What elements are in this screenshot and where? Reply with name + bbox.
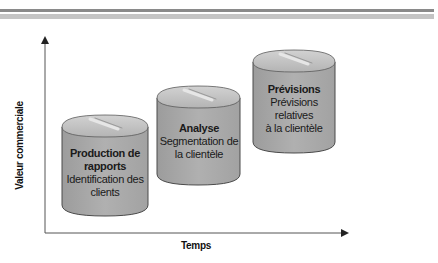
stage-production-de-rapports: Production de rapports Identification de… (60, 147, 150, 199)
x-axis-arrow-icon (341, 229, 349, 237)
y-axis (41, 36, 49, 233)
stage-description: clients (60, 186, 150, 199)
stage-title: Production de (60, 147, 150, 160)
y-axis-arrow-icon (41, 36, 49, 44)
stage-title: rapports (60, 160, 150, 173)
stage-description: Segmentation de (155, 135, 243, 148)
y-axis-label: Valeur commerciale (14, 91, 25, 201)
stage-title: Prévisions (251, 83, 337, 96)
stage-analyse: Analyse Segmentation de la clientèle (155, 122, 243, 161)
stage-description: à la clientèle (251, 122, 337, 135)
x-axis-label: Temps (181, 240, 211, 251)
stage-title: Analyse (155, 122, 243, 135)
stage-description: la clientèle (155, 148, 243, 161)
stage-description: Prévisions (251, 96, 337, 109)
stage-description: Identification des (60, 173, 150, 186)
stage-description: relatives (251, 109, 337, 122)
x-axis (45, 229, 349, 237)
stage-previsions: Prévisions Prévisions relatives à la cli… (251, 83, 337, 135)
